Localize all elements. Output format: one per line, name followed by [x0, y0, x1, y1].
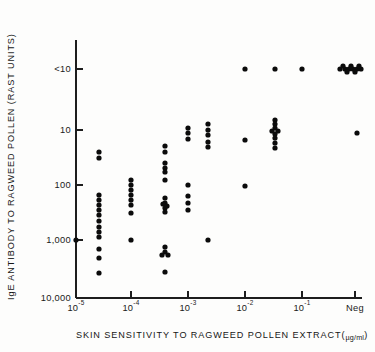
data-point: [128, 187, 133, 192]
data-point: [356, 63, 361, 68]
data-point: [96, 149, 101, 154]
data-point: [162, 195, 167, 200]
x-axis-ticks: [76, 291, 355, 298]
data-point: [185, 130, 190, 135]
x-axis-title: SKIN SENSITIVITY TO RAGWEED POLLEN EXTRA…: [76, 330, 368, 342]
y-axis-tick-labels: <10101001,00010,000: [41, 64, 71, 303]
data-point: [96, 192, 101, 197]
x-tick-label: Neg: [346, 303, 364, 313]
data-point: [352, 69, 357, 74]
data-point: [205, 144, 210, 149]
data-point: [96, 202, 101, 207]
data-point: [162, 177, 167, 182]
data-point: [96, 270, 101, 275]
plot-canvas: <10101001,00010,000 10-510-410-310-210-1…: [0, 0, 375, 352]
data-point: [242, 137, 247, 142]
data-point: [96, 197, 101, 202]
data-point: [205, 237, 210, 242]
data-point: [96, 155, 101, 160]
data-point: [128, 202, 133, 207]
data-point: [272, 66, 277, 71]
data-point: [272, 135, 277, 140]
data-point: [162, 169, 167, 174]
data-point: [340, 63, 345, 68]
data-point: [128, 237, 133, 242]
data-point: [96, 212, 101, 217]
y-tick-label: 1,000: [46, 235, 71, 245]
data-point: [128, 197, 133, 202]
data-point: [165, 252, 170, 257]
scatter-plot-figure: <10101001,00010,000 10-510-410-310-210-1…: [0, 0, 375, 352]
data-point: [205, 139, 210, 144]
y-tick-label: 100: [55, 180, 71, 190]
data-point: [162, 209, 167, 214]
data-point: [354, 130, 359, 135]
data-point: [162, 269, 167, 274]
x-axis-tick-labels: 10-510-410-310-210-1Neg: [67, 298, 364, 313]
data-point: [162, 160, 167, 165]
data-point: [162, 143, 167, 148]
data-point: [348, 63, 353, 68]
y-tick-label: 10: [60, 125, 71, 135]
data-point: [128, 177, 133, 182]
data-point-layer: [73, 63, 363, 275]
data-point: [164, 203, 169, 208]
y-tick-label: <10: [54, 64, 71, 74]
data-point: [205, 127, 210, 132]
x-tick-label: 10-4: [122, 298, 139, 313]
x-tick-label: 10-3: [179, 298, 196, 313]
data-point: [242, 183, 247, 188]
data-point: [299, 66, 304, 71]
y-axis: <10101001,00010,000: [41, 40, 83, 303]
data-point: [162, 149, 167, 154]
data-point: [96, 255, 101, 260]
x-tick-label: 10-2: [236, 298, 253, 313]
data-point: [272, 140, 277, 145]
data-point: [73, 237, 78, 242]
x-tick-label: 10-1: [293, 298, 310, 313]
data-point: [96, 207, 101, 212]
data-point: [272, 145, 277, 150]
data-point: [128, 192, 133, 197]
data-point: [185, 200, 190, 205]
data-point: [344, 69, 349, 74]
data-point: [185, 125, 190, 130]
y-axis-title: IgE ANTIBODY TO RAGWEED POLLEN (RAST UNI…: [6, 33, 16, 300]
data-point: [128, 182, 133, 187]
data-point: [128, 210, 133, 215]
data-point: [96, 246, 101, 251]
data-point: [96, 234, 101, 239]
data-point: [159, 252, 164, 257]
data-point: [96, 229, 101, 234]
y-tick-label: 10,000: [41, 293, 71, 303]
data-point: [185, 193, 190, 198]
data-point: [96, 218, 101, 223]
x-axis: 10-510-410-310-210-1Neg: [67, 291, 364, 313]
data-point: [205, 121, 210, 126]
data-point: [185, 207, 190, 212]
y-axis-ticks: [76, 69, 83, 298]
data-point: [96, 224, 101, 229]
data-point: [205, 132, 210, 137]
data-point: [242, 66, 247, 71]
data-point: [185, 182, 190, 187]
data-point: [185, 136, 190, 141]
data-point: [162, 244, 167, 249]
